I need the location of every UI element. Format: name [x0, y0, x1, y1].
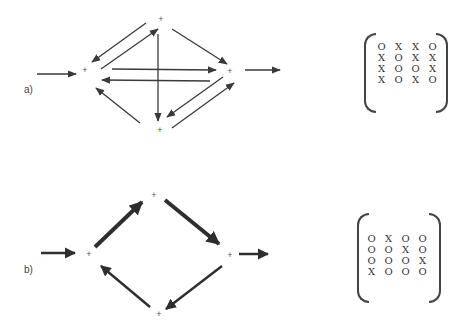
matrix-cell: O	[390, 63, 407, 74]
edge-a-3-1	[102, 80, 210, 81]
node-a-bottom: +	[155, 126, 165, 135]
matrix-cell: X	[373, 74, 390, 85]
matrix-cell: O	[380, 244, 397, 255]
matrix-cell: X	[407, 41, 424, 52]
matrix-cell: X	[380, 233, 397, 244]
matrix-cell: X	[397, 244, 414, 255]
matrix-cell: O	[380, 255, 397, 266]
matrix-cell: X	[373, 63, 390, 74]
matrix-cell: O	[397, 233, 414, 244]
node-b-top: +	[149, 191, 159, 200]
network-a	[37, 23, 280, 128]
matrix-cell: O	[424, 74, 441, 85]
matrix-cell: O	[390, 52, 407, 63]
matrix-cell: X	[424, 63, 441, 74]
edge-b-4-1	[101, 266, 150, 307]
node-b-right: +	[225, 251, 235, 260]
matrix-cell: X	[363, 266, 380, 277]
matrix-cell: X	[407, 52, 424, 63]
matrix-cell: X	[373, 52, 390, 63]
matrix-cell: X	[407, 74, 424, 85]
matrix-cell: X	[390, 41, 407, 52]
panel-label-a: a)	[24, 84, 33, 95]
matrix-grid-b: O X O O O O X O O O O X X O O O	[363, 233, 431, 277]
node-b-left: +	[84, 250, 94, 259]
edge-a-4-1	[96, 88, 140, 123]
adjacency-matrix-a: O X X O X O X X X O O X X O X O	[364, 33, 448, 113]
matrix-cell: O	[397, 255, 414, 266]
edge-a-2-3	[172, 29, 227, 64]
edge-b-1-2	[95, 202, 142, 247]
matrix-cell: O	[373, 41, 390, 52]
node-a-top: +	[156, 15, 166, 24]
matrix-cell: O	[397, 266, 414, 277]
edge-a-1-3	[112, 69, 216, 70]
matrix-cell: O	[380, 266, 397, 277]
matrix-cell: O	[363, 233, 380, 244]
node-a-left: +	[80, 66, 90, 75]
matrix-cell: X	[424, 52, 441, 63]
matrix-cell: X	[414, 255, 431, 266]
matrix-cell: O	[414, 244, 431, 255]
node-a-right: +	[225, 67, 235, 76]
adjacency-matrix-b: O X O O O O X O O O O X X O O O	[357, 213, 441, 303]
matrix-cell: O	[363, 244, 380, 255]
panel-label-b: b)	[24, 264, 33, 275]
node-b-bottom: +	[154, 310, 164, 319]
edge-b-2-3	[165, 200, 219, 244]
matrix-cell: O	[414, 266, 431, 277]
matrix-cell: O	[424, 41, 441, 52]
matrix-cell: O	[414, 233, 431, 244]
matrix-cell: O	[390, 74, 407, 85]
matrix-cell: O	[363, 255, 380, 266]
edge-b-3-4	[166, 266, 222, 309]
matrix-cell: O	[407, 63, 424, 74]
edge-a-4-3	[172, 83, 234, 128]
matrix-grid-a: O X X O X O X X X O O X X O X O	[373, 41, 441, 85]
